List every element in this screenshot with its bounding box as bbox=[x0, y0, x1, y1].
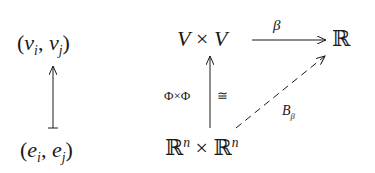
phi-times-phi-label: Φ×Φ bbox=[164, 89, 190, 102]
node-ei-ej: (ei, ej) bbox=[20, 139, 73, 161]
sub-beta: β bbox=[291, 111, 295, 121]
reals-symbol: ℝ bbox=[214, 135, 232, 160]
var-e: e bbox=[27, 137, 37, 162]
var-V: V bbox=[177, 26, 190, 51]
phi-times-phi-text: Φ×Φ bbox=[164, 88, 190, 103]
var-e: e bbox=[52, 137, 62, 162]
b-beta-dashed-arrow bbox=[236, 56, 325, 128]
var-V: V bbox=[214, 26, 227, 51]
sup-n: n bbox=[183, 135, 190, 150]
comma: , bbox=[38, 30, 49, 55]
comma: , bbox=[41, 137, 52, 162]
node-rn-times-rn: ℝn × ℝn bbox=[165, 137, 239, 159]
node-v-times-v: V × V bbox=[177, 28, 227, 50]
var-B: B bbox=[282, 103, 291, 118]
node-vi-vj: (vi, vj) bbox=[17, 32, 70, 54]
maps-to-arrow bbox=[48, 66, 58, 128]
beta-symbol: β bbox=[273, 17, 280, 33]
var-v: v bbox=[24, 30, 34, 55]
cong-symbol: ≅ bbox=[217, 88, 228, 103]
times-symbol: × bbox=[196, 26, 208, 51]
isomorphism-label: ≅ bbox=[217, 89, 228, 102]
reals-symbol: ℝ bbox=[165, 135, 183, 160]
node-reals: ℝ bbox=[332, 28, 350, 50]
beta-label: β bbox=[273, 18, 280, 33]
paren-close: ) bbox=[65, 137, 72, 162]
sup-n: n bbox=[232, 135, 239, 150]
reals-symbol: ℝ bbox=[332, 26, 350, 51]
times-symbol: × bbox=[196, 135, 208, 160]
paren-close: ) bbox=[62, 30, 69, 55]
var-v: v bbox=[49, 30, 59, 55]
b-beta-label: Bβ bbox=[282, 104, 295, 118]
